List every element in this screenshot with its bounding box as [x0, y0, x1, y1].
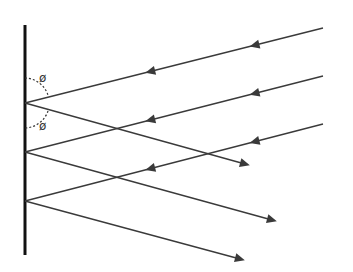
ray-1-reflected — [25, 103, 245, 164]
arrowhead-icon — [248, 136, 260, 147]
arrowhead-icon — [249, 88, 261, 99]
ray-2-incident — [25, 76, 323, 152]
diagram-canvas — [0, 0, 353, 272]
arrowhead-icon — [266, 214, 278, 225]
arrowhead-icon — [234, 253, 246, 264]
arrowhead-icon — [144, 163, 156, 174]
ray-3-incident — [25, 124, 323, 201]
angle-label-bottom: ø — [39, 120, 46, 132]
arrowhead-icon — [239, 158, 251, 169]
ray-2-reflected — [25, 152, 272, 220]
ray-3-reflected — [25, 201, 240, 259]
arrowhead-icon — [249, 40, 261, 51]
arrowhead-icon — [144, 66, 156, 77]
rays-group — [25, 28, 323, 265]
ray-1-incident — [25, 28, 323, 103]
arrowhead-icon — [144, 114, 156, 125]
angle-label-top: ø — [39, 72, 46, 84]
reflection-diagram: ø ø — [0, 0, 353, 272]
